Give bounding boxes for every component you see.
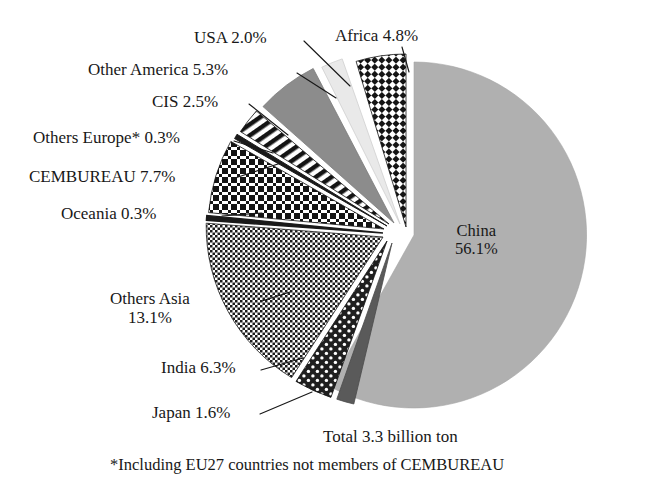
label-china: China 56.1% <box>455 222 498 259</box>
label-japan: Japan 1.6% <box>152 403 230 422</box>
label-others-asia: Others Asia 13.1% <box>110 289 190 327</box>
label-cembureau: CEMBUREAU 7.7% <box>29 167 175 186</box>
label-others-europe: Others Europe* 0.3% <box>33 128 180 147</box>
label-africa: Africa 4.8% <box>335 26 418 45</box>
pie-chart: USA 2.0% Africa 4.8% Other America 5.3% … <box>0 0 645 492</box>
label-china-value: 56.1% <box>455 240 498 258</box>
label-others-asia-value: 13.1% <box>110 308 190 327</box>
label-usa: USA 2.0% <box>194 28 267 47</box>
label-cis: CIS 2.5% <box>152 92 218 111</box>
label-oceania: Oceania 0.3% <box>61 204 156 223</box>
total-caption: Total 3.3 billion ton <box>323 427 458 446</box>
footnote-caption: *Including EU27 countries not members of… <box>110 456 504 474</box>
label-other-america: Other America 5.3% <box>88 60 228 79</box>
label-china-name: China <box>455 222 498 240</box>
leader-line-japan <box>260 392 312 414</box>
label-others-asia-name: Others Asia <box>110 289 190 308</box>
label-india: India 6.3% <box>161 358 236 377</box>
